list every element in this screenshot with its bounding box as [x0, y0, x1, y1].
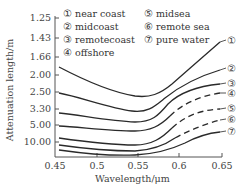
x-tick-labels: 0.45 0.5 0.55 0.6 0.65	[44, 160, 232, 171]
y-tick-label: 1.25	[30, 12, 51, 23]
x-tick-label: 0.6	[171, 160, 186, 171]
legend-marker: ⑥	[144, 21, 153, 32]
legend-label: midcoast	[75, 21, 119, 32]
y-tick-label: 2.00	[30, 69, 51, 80]
curve-label-1: ①	[227, 35, 236, 46]
legend-label: remote sea	[156, 21, 210, 32]
legend-marker: ⑤	[144, 8, 153, 19]
legend-item-remotecoast: ③ remotecoast	[63, 33, 135, 46]
legend-marker: ③	[63, 34, 72, 45]
legend-column-right: ⑤ midsea ⑥ remote sea ⑦ pure water	[144, 7, 210, 46]
legend-item-offshore: ④ offshore	[63, 46, 135, 59]
x-tick-label: 0.65	[211, 160, 232, 171]
legend-item-pure-water: ⑦ pure water	[144, 33, 210, 46]
x-tick-label: 0.45	[44, 160, 65, 171]
legend-column-left: ① near coast ② midcoast ③ remotecoast ④ …	[63, 7, 135, 59]
legend-marker: ①	[63, 8, 72, 19]
y-axis-title-text: Attenuation length/m	[4, 39, 15, 142]
curve-pure-water	[59, 132, 220, 155]
legend-item-midsea: ⑤ midsea	[144, 7, 210, 20]
legend-marker: ⑦	[144, 34, 153, 45]
curve-label-6: ⑥	[227, 114, 236, 125]
curve-label-2: ②	[227, 63, 236, 74]
legend-label: pure water	[156, 34, 209, 45]
y-tick-label: 2.50	[30, 86, 51, 97]
legend-label: offshore	[75, 47, 114, 58]
curve-label-4: ④	[227, 88, 236, 99]
y-tick-label: 3.30	[30, 103, 51, 114]
legend-label: near coast	[75, 8, 125, 19]
y-tick-label: 1.66	[30, 51, 51, 62]
legend-item-near-coast: ① near coast	[63, 7, 135, 20]
legend-item-midcoast: ② midcoast	[63, 20, 135, 33]
y-tick-label: 1.43	[30, 32, 51, 43]
y-tick-label: 5.00	[30, 119, 51, 130]
curve-midsea-dashed	[172, 109, 220, 128]
legend-marker: ②	[63, 21, 72, 32]
legend-label: remotecoast	[75, 34, 135, 45]
curve-remote-sea-dashed	[175, 120, 220, 138]
curve-remotecoast	[59, 84, 220, 122]
y-tick-labels: 1.25 1.43 1.66 2.00 2.50 3.30 5.00 10.00	[24, 12, 51, 147]
y-tick-label: 10.00	[24, 136, 51, 147]
label-leaders	[220, 40, 226, 132]
curve-label-7: ⑦	[227, 126, 236, 137]
curve-midcoast	[59, 70, 220, 111]
legend-marker: ④	[63, 47, 72, 58]
x-tick-label: 0.5	[89, 160, 104, 171]
legend-label: midsea	[156, 8, 190, 19]
legend-item-remote-sea: ⑥ remote sea	[144, 20, 210, 33]
x-axis-title: Wavelength/μm	[95, 173, 170, 184]
curve-label-5: ⑤	[227, 103, 236, 114]
x-tick-label: 0.55	[127, 160, 148, 171]
curve-labels: ① ② ③ ④ ⑤ ⑥ ⑦	[227, 35, 236, 137]
y-axis-title: Attenuation length/m	[2, 40, 16, 140]
